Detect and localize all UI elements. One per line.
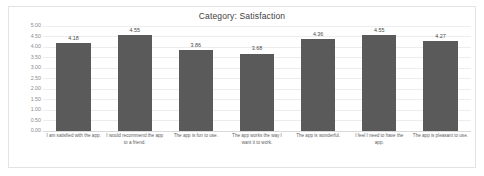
x-axis-tick-label: I would recommend the app to a friend. [104,133,165,165]
bar-slot: 4.36 [288,26,349,131]
bar-slot: 3.86 [165,26,226,131]
bar-slot: 4.27 [410,26,471,131]
bar-value-label: 4.55 [129,28,140,33]
x-axis-tick-label: The app is fun to use. [165,133,226,165]
bar[interactable]: 4.36 [301,39,335,131]
bar[interactable]: 4.55 [362,35,396,131]
chart-container: Category: Satisfaction 5.004.504.003.503… [8,6,476,168]
bar-value-label: 4.27 [435,34,446,39]
y-axis-tick-label: 1.50 [31,97,41,102]
gridlines-and-bars: 4.184.553.863.684.364.554.27 [43,26,471,131]
x-axis-tick-label: The app is pleasant to use. [410,133,471,165]
bar[interactable]: 4.18 [56,43,90,131]
plot-area: 5.004.504.003.503.002.502.001.501.000.50… [9,26,475,131]
y-axis-tick-label: 5.00 [31,23,41,28]
bar-slot: 4.55 [104,26,165,131]
bar-slot: 3.68 [226,26,287,131]
bar-value-label: 3.68 [252,46,263,51]
y-axis-tick-label: 1.00 [31,107,41,112]
bar[interactable]: 3.68 [240,54,274,131]
x-axis-tick-label: The app works the way I want it to work. [226,133,287,165]
bar-slot: 4.18 [43,26,104,131]
bar-value-label: 4.18 [68,36,79,41]
bar[interactable]: 4.55 [118,35,152,131]
bar-slot: 4.55 [349,26,410,131]
y-axis-tick-label: 3.50 [31,55,41,60]
y-axis-tick-label: 2.00 [31,86,41,91]
y-axis-tick-label: 4.00 [31,44,41,49]
bar-value-label: 4.36 [313,32,324,37]
y-axis-tick-label: 3.00 [31,65,41,70]
y-axis-tick-label: 4.50 [31,34,41,39]
y-axis-tick-label: 2.50 [31,76,41,81]
x-axis-tick-label: I am satisfied with the app. [43,133,104,165]
chart-title: Category: Satisfaction [9,11,475,21]
x-axis-tick-label: I feel I need to have the app. [349,133,410,165]
bar[interactable]: 3.86 [179,50,213,131]
bar[interactable]: 4.27 [423,41,457,131]
bar-value-label: 3.86 [191,43,202,48]
bar-series: 4.184.553.863.684.364.554.27 [43,26,471,131]
y-axis-tick-label: 0.50 [31,118,41,123]
y-axis-tick-label: 0.00 [31,128,41,133]
x-axis-category-labels: I am satisfied with the app.I would reco… [43,133,471,165]
bar-value-label: 4.55 [374,28,385,33]
y-axis: 5.004.504.003.503.002.502.001.501.000.50… [9,26,43,131]
x-axis-tick-label: The app is wonderful. [288,133,349,165]
